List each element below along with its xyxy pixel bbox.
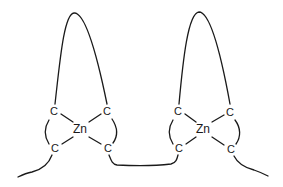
atom-c: C — [227, 143, 235, 155]
bond-c1-zn — [61, 114, 73, 122]
chemical-diagram: C C C C Zn C C C C Zn — [0, 0, 283, 187]
bond-c7-zn — [186, 137, 196, 144]
right-outer-arc — [235, 120, 240, 144]
bond-c5-zn — [185, 114, 196, 122]
bond-c8-zn — [212, 137, 224, 145]
atom-c: C — [226, 106, 234, 118]
right-complex: C C C C Zn — [169, 12, 268, 176]
atom-c: C — [174, 105, 182, 117]
atom-c: C — [103, 105, 111, 117]
right-loop — [179, 12, 230, 104]
atom-zn: Zn — [73, 122, 87, 136]
left-complex: C C C C Zn — [18, 13, 117, 177]
atom-zn: Zn — [196, 122, 210, 136]
atom-c: C — [104, 142, 112, 154]
right-outer-arc-left-complex — [112, 119, 117, 143]
atom-c: C — [175, 142, 183, 154]
left-tail — [18, 155, 52, 177]
left-outer-arc — [45, 120, 49, 144]
left-outer-arc-right-complex — [169, 120, 173, 144]
left-loop — [55, 13, 107, 104]
bond-c3-zn — [62, 137, 73, 144]
right-tail — [234, 156, 268, 176]
bond-c2-zn — [89, 114, 101, 122]
bond-c4-zn — [89, 137, 101, 144]
bridge-chain — [109, 155, 178, 166]
atom-c: C — [50, 105, 58, 117]
bond-c6-zn — [212, 115, 224, 122]
atom-c: C — [51, 142, 59, 154]
